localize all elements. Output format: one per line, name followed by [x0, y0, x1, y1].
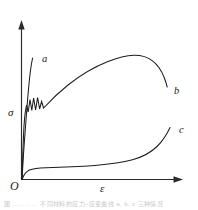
curve-a-group: [22, 58, 33, 180]
x-axis-label: ε: [100, 182, 105, 194]
figure-caption: 图 ………… 不同材料的应力–应变曲线 a, b, c 三种情况: [0, 198, 198, 210]
curve-a-path: [22, 58, 33, 180]
curve-b-hardening-path: [44, 55, 168, 108]
curve-label-c: c: [179, 124, 184, 135]
curve-label-b: b: [174, 85, 179, 96]
stress-strain-figure: O σ ε a b c 图 ………… 不同材料的应力–应变曲线 a, b, c …: [0, 0, 198, 210]
labels-group: O σ ε a b c: [8, 53, 184, 194]
stress-strain-plot: O σ ε a b c: [0, 0, 198, 210]
y-axis-arrow-icon: [18, 20, 24, 30]
curve-b-group: [22, 55, 167, 179]
origin-label: O: [10, 179, 19, 193]
curve-label-a: a: [42, 53, 47, 64]
curve-c-group: [22, 128, 170, 180]
axes-group: [18, 20, 183, 183]
curve-b-serration-path: [27, 98, 44, 113]
x-axis-arrow-icon: [174, 176, 184, 182]
y-axis-label: σ: [8, 106, 14, 118]
curve-c-path: [22, 128, 170, 180]
